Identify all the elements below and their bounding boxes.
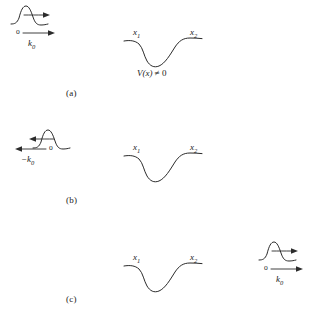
momentum-label-b: −k0 — [21, 154, 34, 166]
panel-a: o k0 x1 x2 V(x) ≠ 0 (a) — [0, 0, 315, 110]
panel-b: o −k0 x1 x2 (b) — [0, 110, 315, 220]
x1-label-b: x1 — [133, 142, 140, 154]
x1-label-a: x1 — [133, 27, 140, 39]
panel-label-a: (a) — [66, 88, 77, 98]
x2-label-b: x2 — [190, 142, 197, 154]
panel-label-c: (c) — [66, 294, 77, 304]
momentum-label-c: k0 — [276, 274, 283, 286]
momentum-subscript-a: 0 — [32, 43, 35, 50]
momentum-subscript-c: 0 — [280, 279, 283, 286]
x1-subscript-b: 1 — [137, 147, 140, 154]
origin-label-a: o — [16, 27, 20, 36]
momentum-arrow-c — [271, 264, 305, 274]
x1-label-c: x1 — [133, 252, 140, 264]
momentum-arrow-a — [23, 28, 57, 38]
momentum-subscript-b: 0 — [31, 159, 34, 166]
potential-relation-a: ≠ 0 — [155, 68, 167, 78]
momentum-label-a: k0 — [28, 38, 35, 50]
potential-caption-a: V(x) ≠ 0 — [137, 68, 166, 78]
x2-subscript-c: 2 — [194, 257, 197, 264]
x2-subscript-a: 2 — [194, 32, 197, 39]
x1-subscript-c: 1 — [137, 257, 140, 264]
scattering-figure: o k0 x1 x2 V(x) ≠ 0 (a) — [0, 0, 315, 324]
panel-c: x1 x2 o k0 (c) — [0, 220, 315, 324]
x1-subscript-a: 1 — [137, 32, 140, 39]
origin-label-c: o — [264, 263, 268, 272]
x2-label-a: x2 — [190, 27, 197, 39]
potential-argument-a: (x) — [143, 68, 153, 78]
momentum-arrow-b — [14, 144, 48, 154]
panel-label-b: (b) — [66, 195, 77, 205]
origin-label-b: o — [49, 143, 53, 152]
x2-subscript-b: 2 — [194, 147, 197, 154]
momentum-symbol-b: −k — [21, 154, 31, 164]
x2-label-c: x2 — [190, 252, 197, 264]
